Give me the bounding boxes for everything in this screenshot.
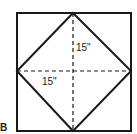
- quilt-block-diagram: 15" 15" B: [0, 0, 137, 134]
- inner-diamond: [17, 13, 131, 131]
- outer-square: [17, 13, 131, 131]
- panel-label: B: [0, 122, 7, 133]
- horizontal-measure-label: 15": [42, 76, 57, 87]
- vertical-measure-label: 15": [76, 42, 91, 53]
